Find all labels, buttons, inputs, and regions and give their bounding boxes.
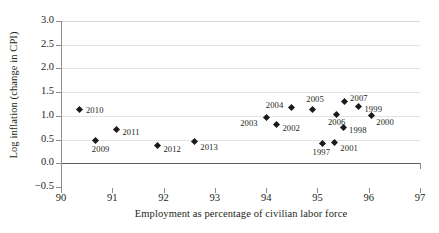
x-axis-tick-label: 93 [202,192,228,203]
y-axis-tick-label: 0.5 [20,133,54,144]
x-axis-tick-label: 95 [304,192,330,203]
x-axis-title: Employment as percentage of civilian lab… [61,208,421,219]
data-point-label: 2005 [306,94,324,104]
data-point-label: 1997 [313,147,331,157]
y-axis-tick-label: 1.5 [20,85,54,96]
data-point-label: 2009 [92,144,110,154]
data-point-label: 1998 [349,125,367,135]
y-axis-tick-label: 3.0 [20,14,54,25]
y-axis-tick [56,68,62,69]
y-axis-tick [56,140,62,141]
data-point-label: 1999 [364,104,382,114]
data-point-label: 2012 [163,144,181,154]
gridline [61,116,420,117]
data-point-label: 2004 [266,100,284,110]
x-axis-tick-label: 90 [48,192,74,203]
data-point-label: 2002 [282,123,300,133]
gridline [61,140,420,141]
data-point-label: 2001 [340,143,358,153]
y-axis-tick [56,116,62,117]
y-axis-tick-label: 2.5 [20,38,54,49]
y-axis-tick [56,92,62,93]
gridline [61,21,420,22]
data-point-label: 2013 [200,142,218,152]
x-axis-tick-label: 97 [407,192,433,203]
data-point-label: 2010 [86,105,104,115]
y-axis-tick [56,163,62,164]
y-axis-tick-label: 1.0 [20,109,54,120]
y-axis-tick-label: 0.0 [20,156,54,167]
x-axis-end-tick [420,163,421,169]
data-point-label: 2011 [122,127,139,137]
gridline [61,45,420,46]
y-axis-tick [56,45,62,46]
y-axis-tick-label: −0.5 [20,180,54,191]
x-axis-tick-label: 92 [151,192,177,203]
gridline [61,68,420,69]
x-axis-tick-label: 94 [253,192,279,203]
data-point-label: 2007 [350,93,368,103]
y-axis-tick [56,21,62,22]
scatter-plot-figure: Log inflation (change in CPI) Employment… [0,0,439,233]
data-point-label: 2003 [240,118,258,128]
data-point-label: 2000 [376,117,394,127]
y-axis-tick-label: 2.0 [20,61,54,72]
x-axis-tick-label: 96 [356,192,382,203]
x-axis-tick-label: 91 [99,192,125,203]
data-point-label: 2006 [328,117,346,127]
